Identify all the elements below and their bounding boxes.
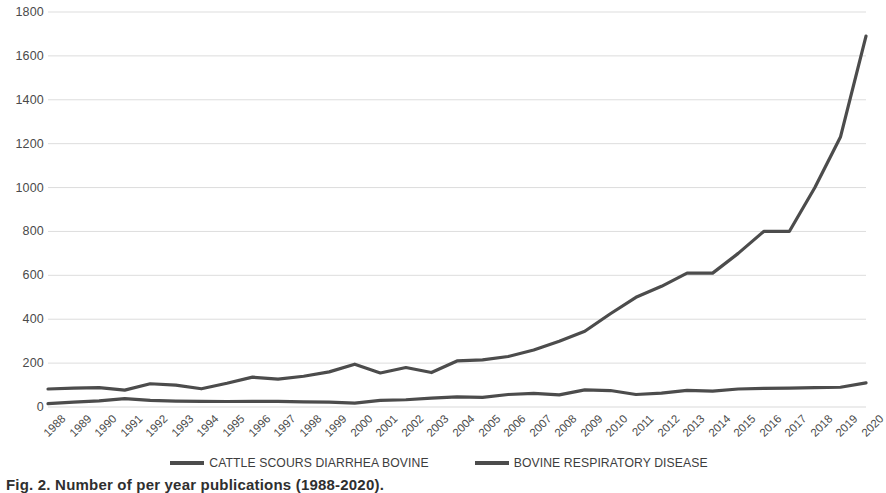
y-axis-tick-label: 1200 [0, 138, 44, 151]
figure-caption: Fig. 2. Number of per year publications … [6, 476, 384, 493]
legend-item-label: BOVINE RESPIRATORY DISEASE [514, 456, 708, 470]
y-axis-tick-label: 1000 [0, 182, 44, 195]
series-line-bovine-respiratory [48, 36, 866, 390]
legend-item-label: CATTLE SCOURS DIARRHEA BOVINE [209, 456, 428, 470]
legend-item-bovine-respiratory[interactable]: BOVINE RESPIRATORY DISEASE [475, 456, 708, 470]
legend-item-cattle-scours[interactable]: CATTLE SCOURS DIARRHEA BOVINE [170, 456, 428, 470]
y-axis-tick-label: 0 [0, 401, 44, 414]
y-axis-tick-label: 1800 [0, 6, 44, 19]
legend-line-swatch-icon [170, 461, 204, 464]
legend-line-swatch-icon [475, 461, 509, 464]
y-axis-tick-label: 1600 [0, 50, 44, 63]
y-axis-tick-label: 200 [0, 357, 44, 370]
y-axis-tick-label: 600 [0, 269, 44, 282]
y-axis-tick-label: 1400 [0, 94, 44, 107]
y-axis-tick-label: 800 [0, 225, 44, 238]
gridline-group [48, 12, 866, 407]
series-group [48, 36, 866, 404]
chart-legend: CATTLE SCOURS DIARRHEA BOVINE BOVINE RES… [0, 452, 878, 474]
y-axis-tick-label: 400 [0, 313, 44, 326]
